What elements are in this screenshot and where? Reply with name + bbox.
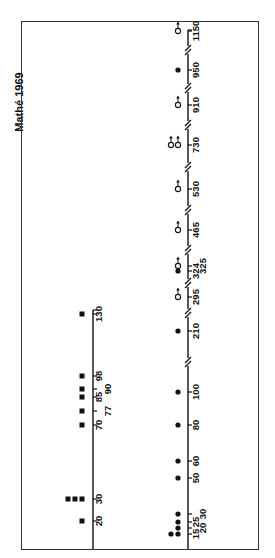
- filled-square-marker: [80, 409, 85, 414]
- open-circle-arrow-marker: [168, 136, 173, 148]
- filled-square-marker: [80, 423, 85, 428]
- filled-square-marker: [80, 395, 85, 400]
- open-circle-arrow-marker: [175, 136, 180, 148]
- right-axis-label: 465: [190, 221, 201, 238]
- dot-plot: 2030707785909813015202530506080100210295…: [0, 0, 275, 558]
- filled-circle-marker: [175, 531, 180, 536]
- arrowhead-icon: [176, 221, 180, 224]
- arrowhead-icon: [176, 136, 180, 139]
- filled-square-marker: [80, 312, 85, 317]
- right-axis-label: 950: [190, 62, 201, 78]
- right-axis-label: 1150: [190, 21, 201, 42]
- open-circle-arrow-marker: [175, 180, 180, 192]
- open-circle-icon: [175, 227, 180, 232]
- filled-circle-marker: [175, 511, 180, 516]
- filled-circle-marker: [175, 389, 180, 394]
- open-circle-arrow-marker: [175, 22, 180, 34]
- open-circle-icon: [175, 186, 180, 191]
- left-axis-label: 20: [93, 516, 104, 527]
- right-axis-label: 80: [190, 420, 201, 431]
- filled-circle-marker: [175, 422, 180, 427]
- open-circle-icon: [175, 263, 180, 268]
- right-axis-label: 325: [197, 257, 208, 274]
- arrowhead-icon: [176, 288, 180, 291]
- right-axis-label: 30: [197, 509, 208, 520]
- right-axis-label: 210: [190, 323, 201, 339]
- right-axis-label: 60: [190, 456, 201, 467]
- right-axis-label: 100: [190, 384, 201, 400]
- left-axis-label: 90: [102, 384, 113, 395]
- left-axis-label: 98: [93, 371, 104, 382]
- filled-square-marker: [66, 497, 71, 502]
- left-axis-label: 77: [102, 406, 113, 417]
- right-axis-label: 530: [190, 181, 201, 197]
- filled-circle-marker: [168, 531, 173, 536]
- filled-square-marker: [80, 374, 85, 379]
- open-circle-icon: [175, 142, 180, 147]
- open-circle-arrow-marker: [175, 257, 180, 269]
- arrowhead-icon: [169, 136, 173, 139]
- right-axis-label: 910: [190, 97, 201, 113]
- open-circle-icon: [175, 294, 180, 299]
- open-circle-icon: [168, 142, 173, 147]
- arrowhead-icon: [176, 22, 180, 25]
- open-circle-arrow-marker: [175, 96, 180, 108]
- filled-square-marker: [73, 497, 78, 502]
- left-axis-label: 30: [93, 494, 104, 505]
- filled-circle-marker: [175, 475, 180, 480]
- right-axis-label: 730: [190, 137, 201, 153]
- filled-square-marker: [80, 387, 85, 392]
- arrowhead-icon: [176, 96, 180, 99]
- filled-circle-marker: [175, 328, 180, 333]
- right-axis-label: 50: [190, 473, 201, 484]
- arrowhead-icon: [176, 257, 180, 260]
- filled-circle-marker: [175, 458, 180, 463]
- filled-circle-marker: [175, 525, 180, 530]
- filled-square-marker: [80, 497, 85, 502]
- left-axis-label: 70: [93, 420, 104, 431]
- left-axis-label: 130: [93, 306, 104, 322]
- right-axis-label: 295: [190, 288, 201, 305]
- open-circle-arrow-marker: [175, 221, 180, 233]
- open-circle-arrow-marker: [175, 288, 180, 300]
- filled-circle-marker: [175, 268, 180, 273]
- arrowhead-icon: [176, 180, 180, 183]
- open-circle-icon: [175, 102, 180, 107]
- filled-circle-marker: [175, 67, 180, 72]
- filled-square-marker: [80, 519, 85, 524]
- filled-circle-marker: [175, 519, 180, 524]
- open-circle-icon: [175, 28, 180, 33]
